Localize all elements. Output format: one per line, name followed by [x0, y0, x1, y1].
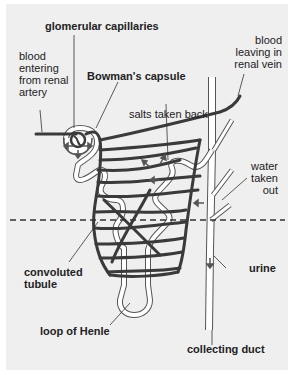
label-bowmans-capsule: Bowman's capsule	[87, 70, 186, 82]
label-salts-taken-back: salts taken back	[129, 108, 208, 120]
label-blood-entering: blood entering from renal artery	[19, 50, 69, 98]
label-glomerular-capillaries: glomerular capillaries	[45, 20, 159, 32]
label-collecting-duct: collecting duct	[187, 343, 265, 355]
label-loop-of-henle: loop of Henle	[40, 325, 110, 337]
label-water-taken-out: water taken out	[244, 160, 278, 196]
tubule-shape	[66, 128, 212, 315]
label-blood-leaving: blood leaving in renal vein	[226, 34, 282, 70]
label-urine: urine	[249, 262, 276, 274]
label-convoluted-tubule: convoluted tubule	[24, 266, 83, 290]
